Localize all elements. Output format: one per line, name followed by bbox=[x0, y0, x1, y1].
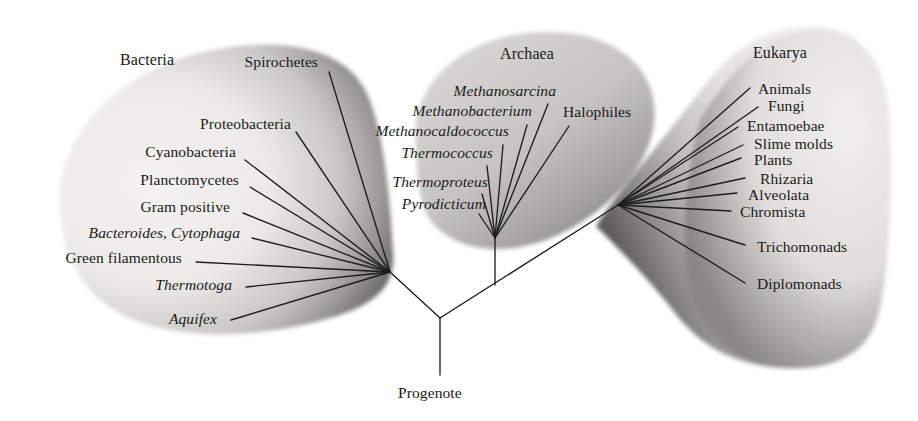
phylogenetic-tree-figure: Bacteria Archaea Eukarya Progenote Spiro… bbox=[0, 0, 918, 421]
root-branch-bacteria bbox=[390, 272, 440, 318]
domain-title-archaea: Archaea bbox=[500, 46, 554, 62]
taxon-label-diplomonads: Diplomonads bbox=[757, 276, 842, 292]
taxon-label-trichomonads: Trichomonads bbox=[757, 239, 847, 255]
taxon-label-animals: Animals bbox=[758, 81, 811, 97]
domain-title-eukarya: Eukarya bbox=[753, 45, 807, 61]
taxon-label-methanobacterium: Methanobacterium bbox=[412, 103, 532, 119]
taxon-label-planctomycetes: Planctomycetes bbox=[140, 172, 239, 188]
domain-title-bacteria: Bacteria bbox=[120, 52, 174, 68]
taxon-label-methanocaldococcus: Methanocaldococcus bbox=[375, 123, 509, 139]
taxon-label-spirochetes: Spirochetes bbox=[245, 54, 318, 70]
taxon-label-pyrodicticum: Pyrodicticum bbox=[402, 196, 486, 212]
taxon-label-proteobacteria: Proteobacteria bbox=[200, 116, 291, 132]
taxon-label-aquifex: Aquifex bbox=[169, 311, 217, 327]
taxon-label-rhizaria: Rhizaria bbox=[760, 171, 813, 187]
taxon-label-green-filamentous: Green filamentous bbox=[65, 250, 182, 266]
taxon-label-chromista: Chromista bbox=[740, 204, 805, 220]
taxon-label-methanosarcina: Methanosarcina bbox=[454, 83, 556, 99]
taxon-label-halophiles: Halophiles bbox=[563, 104, 631, 120]
taxon-label-slime-molds: Slime molds bbox=[754, 136, 833, 152]
taxon-label-fungi: Fungi bbox=[768, 98, 805, 114]
taxon-label-thermococcus: Thermococcus bbox=[401, 145, 493, 161]
taxon-label-plants: Plants bbox=[754, 152, 793, 168]
taxon-label-thermotoga: Thermotoga bbox=[155, 277, 232, 293]
taxon-label-alveolata: Alveolata bbox=[748, 187, 809, 203]
taxon-label-thermoproteus: Thermoproteus bbox=[393, 174, 488, 190]
taxon-label-gram-positive: Gram positive bbox=[140, 199, 230, 215]
taxon-label-entamoebae: Entamoebae bbox=[747, 118, 825, 134]
root-label: Progenote bbox=[398, 385, 462, 401]
taxon-label-cyanobacteria: Cyanobacteria bbox=[145, 144, 236, 160]
taxon-label-bacteroides-cytophaga: Bacteroides, Cytophaga bbox=[89, 225, 240, 241]
